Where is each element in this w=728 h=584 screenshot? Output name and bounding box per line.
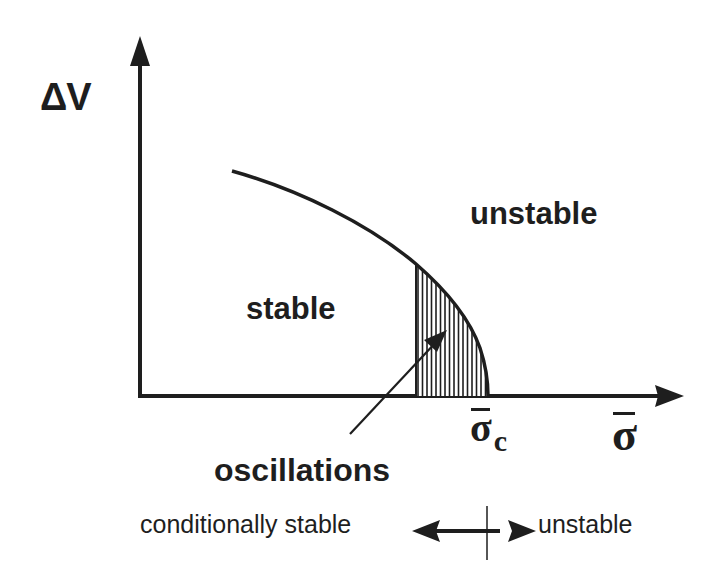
sigma-c-subscript: c bbox=[494, 424, 507, 457]
sigma-c-symbol: σ bbox=[470, 404, 492, 451]
diagram-canvas bbox=[0, 0, 728, 584]
left-arrowhead-icon bbox=[412, 520, 440, 542]
y-axis-label: ΔV bbox=[40, 76, 91, 119]
y-axis-arrowhead-icon bbox=[130, 36, 150, 66]
x-axis-label: σ bbox=[612, 408, 637, 461]
region-label-oscillations: oscillations bbox=[214, 452, 390, 489]
y-axis bbox=[130, 36, 150, 397]
legend-double-arrow bbox=[412, 506, 536, 560]
region-label-unstable: unstable bbox=[470, 196, 597, 232]
legend-label-unstable: unstable bbox=[538, 510, 633, 539]
x-axis bbox=[138, 385, 684, 407]
x-axis-arrowhead-icon bbox=[655, 385, 684, 407]
legend-label-conditionally-stable: conditionally stable bbox=[140, 510, 351, 539]
critical-stress-tick-label: σc bbox=[470, 404, 507, 458]
sigma-symbol: σ bbox=[612, 408, 637, 461]
right-arrowhead-icon bbox=[508, 520, 536, 542]
region-label-stable: stable bbox=[246, 291, 336, 327]
